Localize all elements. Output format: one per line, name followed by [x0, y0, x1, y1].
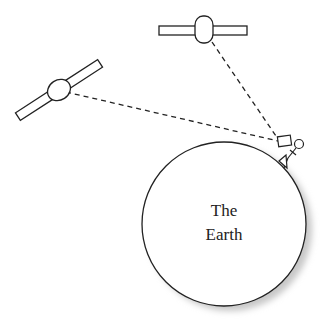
- signal-line-top: [212, 42, 278, 139]
- ground-receiver-person-icon: [277, 135, 303, 168]
- satellite-left-icon: [12, 55, 105, 125]
- earth-label-line1: The: [211, 201, 237, 220]
- signal-line-left: [66, 92, 278, 141]
- earth-label-line2: Earth: [206, 225, 243, 244]
- signal-lines: [66, 42, 278, 141]
- satellite-top-icon: [159, 16, 247, 43]
- earth-circle: [142, 142, 306, 306]
- satellite-diagram: The Earth: [0, 0, 332, 320]
